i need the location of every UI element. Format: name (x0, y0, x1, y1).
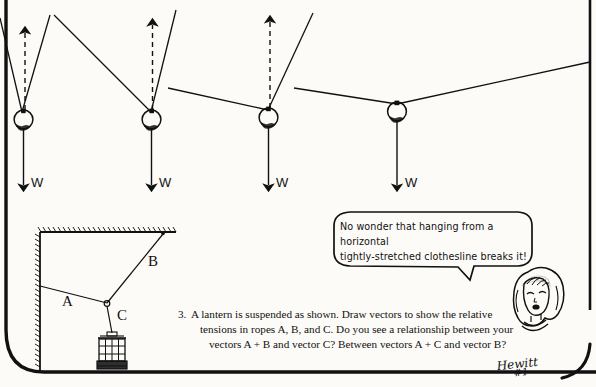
worksheet-page: W W W W A B C No wonder that hanging fro… (0, 0, 596, 387)
weight-label-2: W (159, 176, 171, 189)
weight-label-3: W (276, 176, 288, 189)
question-block: 3. A lantern is suspended as shown. Draw… (178, 307, 518, 352)
ceiling-anchor (161, 232, 165, 236)
ball-group-3 (168, 13, 313, 185)
question-body: A lantern is suspended as shown. Draw ve… (191, 307, 518, 352)
rope-c (107, 306, 112, 333)
cartoon-girl (514, 268, 564, 331)
speech-line-1: No wonder that hanging from a horizontal (340, 220, 532, 250)
ball-group-4 (294, 62, 590, 185)
lantern (97, 332, 127, 369)
question-line-2: tensions in ropes A, B, and C. Do you se… (191, 322, 518, 337)
question-number: 3. (178, 307, 186, 322)
rope-left-3 (168, 88, 268, 110)
weight-label-4: W (405, 176, 417, 189)
rope-right-1 (22, 15, 50, 112)
rope-label-b: B (148, 254, 158, 269)
rope-left-4 (294, 88, 397, 104)
question-line-1: A lantern is suspended as shown. Draw ve… (191, 307, 518, 322)
rope-junction (104, 301, 110, 307)
rope-right-2 (151, 10, 176, 112)
lantern-diagram (35, 227, 176, 370)
rope-right-4 (397, 62, 590, 104)
speech-line-2: tightly-stretched clothesline breaks it! (340, 250, 532, 265)
ball-group-2 (54, 10, 176, 185)
speech-bubble-text: No wonder that hanging from a horizontal… (340, 220, 532, 265)
rope-left-1 (0, 18, 22, 112)
rope-a (40, 286, 107, 303)
weight-label-1: W (31, 176, 43, 189)
rope-label-a: A (62, 294, 73, 309)
author-signature: Hewitt #1 (496, 355, 539, 380)
question-line-3: vectors A + B and vector C? Between vect… (191, 337, 518, 352)
rope-label-c: C (117, 308, 127, 323)
rope-left-2 (54, 15, 151, 112)
rope-right-3 (268, 13, 313, 110)
